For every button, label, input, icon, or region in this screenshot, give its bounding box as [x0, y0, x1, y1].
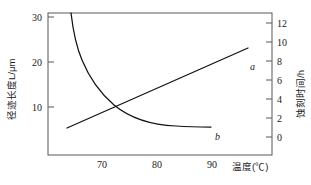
right-axis-ticks: [266, 23, 272, 137]
x-axis-label: 温度(℃): [232, 161, 268, 172]
left-axis-ticks: [48, 17, 54, 107]
series-b-label: b: [215, 131, 220, 142]
y2-tick-label-0: 0: [277, 132, 282, 143]
series-b-curve: [71, 13, 211, 127]
y2-axis-label: 蚀刻时间/h: [295, 70, 306, 118]
chart-canvas: 30 20 10 径迹长度L/μm 12 10 8 6 4 2 0 蚀刻时间/h…: [0, 0, 311, 185]
y-tick-label-30: 30: [32, 12, 42, 23]
series-a-label: a: [250, 61, 255, 72]
x-tick-label-70: 70: [97, 159, 107, 170]
y-tick-label-10: 10: [32, 102, 42, 113]
y2-tick-label-8: 8: [277, 56, 282, 67]
y2-tick-label-6: 6: [277, 75, 282, 86]
plot-frame: [48, 13, 272, 155]
y2-tick-label-2: 2: [277, 113, 282, 124]
x-tick-label-90: 90: [207, 159, 217, 170]
series-a-line: [67, 48, 248, 128]
y-axis-label: 径迹长度L/μm: [6, 59, 17, 120]
y2-tick-label-10: 10: [277, 37, 287, 48]
y-tick-label-20: 20: [32, 57, 42, 68]
y2-tick-label-4: 4: [277, 94, 282, 105]
chart-figure: 30 20 10 径迹长度L/μm 12 10 8 6 4 2 0 蚀刻时间/h…: [0, 0, 311, 185]
y2-tick-label-12: 12: [277, 18, 287, 29]
x-tick-label-80: 80: [152, 159, 162, 170]
